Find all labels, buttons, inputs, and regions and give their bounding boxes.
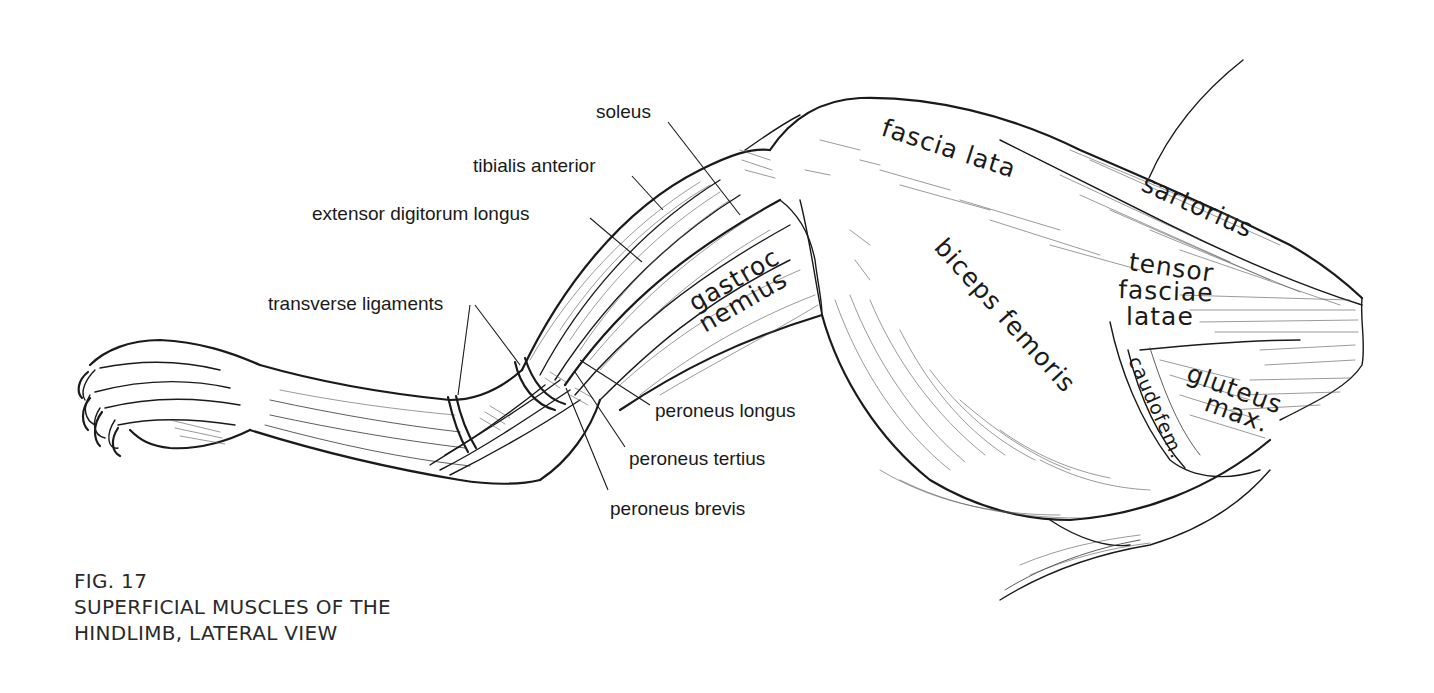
figure-caption: FIG. 17 SUPERFICIAL MUSCLES OF THE HINDL…	[74, 568, 391, 646]
leader-peroneus-brevis	[566, 388, 608, 490]
label-tibialis-anterior: tibialis anterior	[473, 155, 596, 176]
label-peroneus-brevis: peroneus brevis	[610, 498, 745, 519]
leader-transverse-ligament-1	[458, 305, 470, 395]
leader-peroneus-longus	[580, 360, 650, 405]
figure-title-line1: SUPERFICIAL MUSCLES OF THE	[74, 594, 391, 620]
thigh-hatching	[805, 140, 1358, 575]
foot-outline	[250, 358, 593, 484]
leader-extensor-digitorum-longus	[590, 218, 642, 262]
thigh-outline	[770, 60, 1363, 600]
label-transverse-ligaments: transverse ligaments	[268, 293, 443, 314]
label-soleus: soleus	[596, 101, 651, 122]
label-peroneus-longus: peroneus longus	[655, 400, 796, 421]
label-fascia-lata: fascia lata	[878, 113, 1020, 184]
label-biceps-femoris: biceps femoris	[929, 233, 1082, 399]
leader-transverse-ligament-2	[475, 305, 520, 365]
label-peroneus-tertius: peroneus tertius	[629, 448, 765, 469]
label-tensor-line3: latae	[1126, 302, 1194, 331]
label-extensor-digitorum-longus: extensor digitorum longus	[312, 203, 530, 224]
paw	[79, 340, 260, 456]
leader-soleus	[668, 122, 740, 215]
figure-number: FIG. 17	[74, 568, 391, 594]
figure-title-line2: HINDLIMB, LATERAL VIEW	[74, 620, 391, 646]
